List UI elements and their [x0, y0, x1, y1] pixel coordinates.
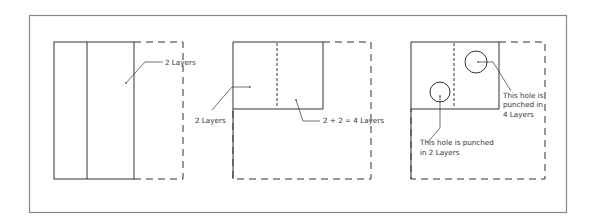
panel-3: This hole is punched in 4 Layers This ho…	[411, 42, 546, 179]
leader-line	[126, 62, 163, 83]
panel-1: 2 Layers	[54, 42, 196, 179]
leader-line-right	[296, 100, 320, 121]
folded-paper	[411, 42, 499, 179]
panel-2: 2 Layers 2 + 2 = 4 Layers	[195, 42, 384, 179]
label-2-layers: 2 Layers	[195, 116, 226, 125]
label-2-layers: 2 Layers	[165, 58, 196, 67]
leader-line-lower	[427, 96, 440, 143]
leader-line-left	[212, 87, 250, 110]
label-hole-4-layers: This hole is punched in 4 Layers	[502, 91, 546, 119]
folded-paper	[54, 42, 134, 179]
folded-paper	[233, 42, 323, 179]
unfolded-outline	[233, 42, 371, 179]
folding-diagram: 2 Layers 2 Layers 2 + 2 = 4 Layers This …	[0, 0, 593, 224]
leader-line-upper	[478, 62, 511, 91]
label-hole-2-layers: This hole is punched in 2 Layers	[419, 138, 496, 157]
label-4-layers: 2 + 2 = 4 Layers	[323, 116, 384, 125]
outer-frame	[30, 16, 567, 213]
